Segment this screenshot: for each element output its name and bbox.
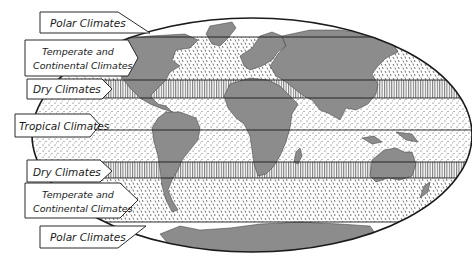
label-polar-south: Polar Climates [40, 226, 146, 248]
label-dry-south: Dry Climates [27, 160, 112, 182]
svg-text:Temperate and: Temperate and [42, 46, 115, 57]
svg-text:Dry Climates: Dry Climates [33, 166, 101, 178]
svg-text:Continental Climates: Continental Climates [33, 203, 132, 214]
label-temperate-north: Temperate and Continental Climates [25, 40, 138, 76]
svg-text:Temperate and: Temperate and [42, 189, 115, 200]
svg-text:Tropical Climates: Tropical Climates [19, 120, 110, 132]
label-polar-north: Polar Climates [40, 12, 150, 33]
label-temperate-south: Temperate and Continental Climates [25, 183, 138, 218]
svg-text:Continental Climates: Continental Climates [33, 60, 132, 71]
svg-text:Polar Climates: Polar Climates [50, 17, 126, 29]
label-dry-north: Dry Climates [27, 79, 112, 99]
svg-text:Polar Climates: Polar Climates [50, 231, 126, 243]
climate-zone-map: Polar Climates Temperate and Continental… [0, 0, 472, 258]
svg-text:Dry Climates: Dry Climates [33, 83, 101, 95]
